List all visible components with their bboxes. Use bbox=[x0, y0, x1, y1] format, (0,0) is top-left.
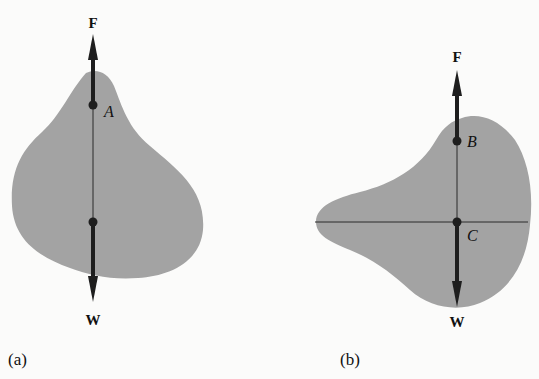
caption-b: (b) bbox=[340, 350, 360, 369]
arrowhead-up-icon bbox=[452, 70, 462, 96]
point-label-c: C bbox=[467, 227, 478, 244]
arrowhead-down-icon bbox=[88, 276, 98, 302]
body-shape-b bbox=[316, 116, 531, 308]
panel-a: F A W (a) bbox=[8, 15, 203, 369]
caption-a: (a) bbox=[8, 350, 27, 369]
figure-canvas: F A W (a) F B C W (b) bbox=[0, 0, 539, 379]
force-f-label-b: F bbox=[452, 49, 461, 65]
force-w-label-a: W bbox=[86, 312, 101, 328]
force-f-label-a: F bbox=[88, 15, 97, 31]
panel-b: F B C W (b) bbox=[315, 49, 531, 369]
point-label-a: A bbox=[103, 103, 114, 120]
point-a-dot bbox=[89, 101, 98, 110]
point-label-b: B bbox=[467, 133, 477, 150]
point-b-dot bbox=[453, 137, 462, 146]
force-w-label-b: W bbox=[450, 314, 465, 330]
arrowhead-up-icon bbox=[88, 34, 98, 60]
